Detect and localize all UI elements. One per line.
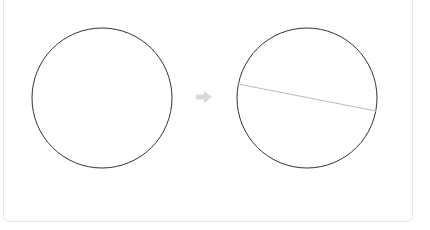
left-circle xyxy=(32,28,172,168)
right-arrow-icon xyxy=(196,91,212,103)
chord-line xyxy=(238,84,376,111)
diagram-canvas xyxy=(0,0,430,230)
